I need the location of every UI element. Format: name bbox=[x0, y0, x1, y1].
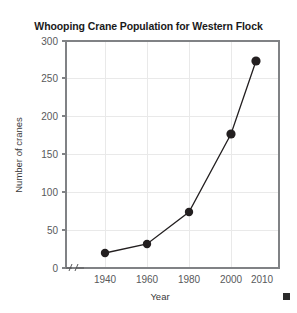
y-axis-tick-labels: 300 250 200 150 100 50 0 bbox=[41, 36, 58, 274]
x-tick-label: 1940 bbox=[94, 274, 117, 285]
line-chart-plot: 300 250 200 150 100 50 0 1940 1960 1980 … bbox=[0, 0, 297, 313]
y-tick-label: 0 bbox=[52, 263, 58, 274]
x-tick-label: 1960 bbox=[136, 274, 159, 285]
y-tick-label: 100 bbox=[41, 187, 58, 198]
chart-figure: Whooping Crane Population for Western Fl… bbox=[0, 0, 297, 313]
x-axis-tick-labels: 1940 1960 1980 2000 2010 bbox=[94, 274, 274, 285]
horizontal-gridlines bbox=[66, 78, 279, 230]
data-point bbox=[226, 129, 235, 138]
data-point bbox=[101, 249, 109, 257]
corner-artifact-mark bbox=[283, 293, 290, 300]
x-axis-title: Year bbox=[150, 291, 169, 302]
y-tick-label: 200 bbox=[41, 111, 58, 122]
y-tick-label: 50 bbox=[47, 225, 59, 236]
data-series-line bbox=[105, 61, 256, 253]
y-tick-label: 300 bbox=[41, 36, 58, 47]
x-tick-label: 2000 bbox=[220, 274, 243, 285]
y-axis-title: Number of cranes bbox=[13, 117, 24, 193]
data-point bbox=[185, 208, 193, 216]
y-tick-label: 150 bbox=[41, 149, 58, 160]
x-tick-label: 1980 bbox=[178, 274, 201, 285]
data-points bbox=[101, 56, 261, 257]
y-axis-ticks bbox=[62, 41, 66, 268]
data-point bbox=[251, 56, 260, 65]
x-tick-label: 2010 bbox=[251, 274, 274, 285]
y-tick-label: 250 bbox=[41, 73, 58, 84]
data-point bbox=[143, 240, 151, 248]
